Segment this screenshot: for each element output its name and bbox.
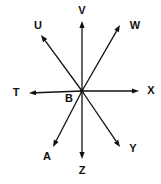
arrowhead-icon: [79, 21, 84, 28]
center-label: B: [65, 92, 73, 104]
ray-label-y: Y: [129, 142, 137, 154]
rays-diagram: VWXYZATUB: [0, 0, 161, 184]
rays-layer: [29, 21, 139, 159]
arrowhead-icon: [41, 35, 47, 42]
ray-y: [82, 91, 116, 141]
ray-w: [82, 31, 117, 91]
arrowhead-icon: [29, 90, 36, 95]
arrowhead-icon: [132, 88, 139, 93]
ray-label-z: Z: [79, 164, 86, 176]
ray-label-x: X: [147, 84, 155, 96]
ray-label-a: A: [43, 150, 51, 162]
center-point: [80, 89, 84, 93]
ray-t: [36, 91, 82, 93]
arrowhead-icon: [53, 140, 59, 147]
ray-label-t: T: [13, 86, 20, 98]
arrowhead-icon: [114, 140, 120, 147]
ray-label-u: U: [34, 19, 42, 31]
ray-label-w: W: [130, 19, 141, 31]
ray-label-v: V: [78, 4, 86, 16]
arrowhead-icon: [114, 25, 120, 32]
ray-u: [45, 41, 82, 91]
arrowhead-icon: [79, 152, 84, 159]
